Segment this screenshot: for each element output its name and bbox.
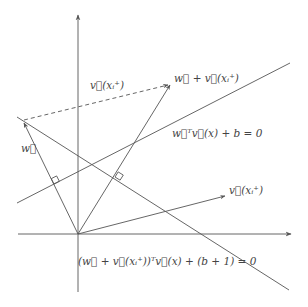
label-v-dashed: v⃗(xᵢ⁺) xyxy=(90,80,124,91)
label-w: w⃗ xyxy=(21,143,36,154)
label-v-xi: v⃗(xᵢ⁺) xyxy=(229,185,263,196)
w-plus-v-vector xyxy=(78,85,170,234)
right-angle-marker-2 xyxy=(115,172,123,180)
label-hyperplane-2: (w⃗ + v⃗(xᵢ⁺))ᵀv⃗(x) + (b + 1) = 0 xyxy=(78,256,256,267)
label-w-plus-v: w⃗ + v⃗(xᵢ⁺) xyxy=(174,73,239,84)
v-xi-vector xyxy=(78,196,225,234)
label-hyperplane-1: w⃗ᵀv⃗(x) + b = 0 xyxy=(172,128,262,139)
right-angle-marker-1 xyxy=(51,176,59,184)
